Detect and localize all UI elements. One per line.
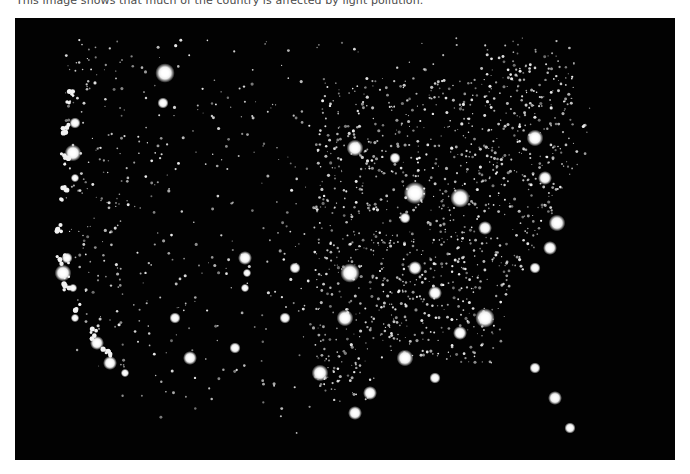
- figure-caption: This image shows that much of the countr…: [16, 0, 423, 7]
- city-lights-map: [15, 18, 675, 460]
- night-lights-photo: [15, 18, 675, 460]
